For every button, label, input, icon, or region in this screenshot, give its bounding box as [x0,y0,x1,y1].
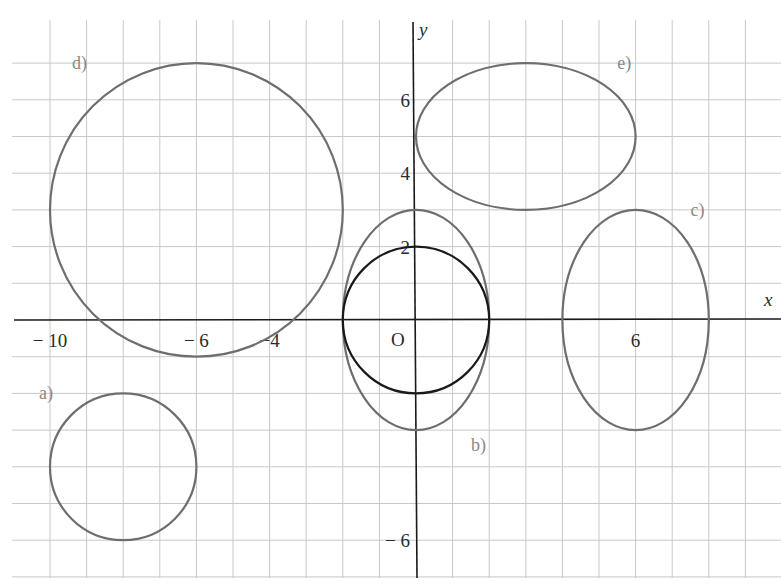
y-axis-label: y [417,19,428,40]
axes: x y O [14,19,781,578]
shape-label: c) [691,200,705,221]
y-axis [413,22,417,578]
grid [12,20,781,578]
x-axis-label: x [763,289,773,310]
shape-label: a) [39,383,53,404]
y-tick-label: − 6 [385,530,410,551]
shape-label: d) [72,53,87,74]
coordinate-plot: x y O − 10− 6−46642− 6 a)b)c)d)e) [0,0,781,584]
x-tick-label: − 6 [184,330,209,351]
x-tick-label: 6 [631,330,641,351]
y-tick-label: 6 [401,90,411,111]
y-tick-label: 4 [401,163,411,184]
x-axis [14,319,781,320]
shape-label: e) [617,53,631,74]
origin-label: O [391,329,405,350]
shape-label: b) [471,435,486,456]
x-tick-label: − 10 [33,330,67,351]
